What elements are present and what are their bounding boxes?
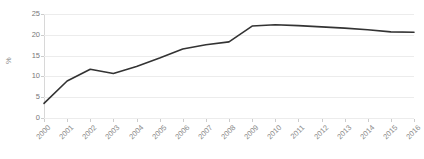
x-tick-mark: [44, 119, 45, 122]
x-axis-tick-labels: 2000200120022003200420052006200720082009…: [44, 119, 414, 159]
x-tick-mark: [90, 119, 91, 122]
y-tick-mark: [41, 14, 44, 15]
plot-area: [44, 14, 414, 118]
line-chart: % 0510152025 200020012002200320042005200…: [0, 0, 424, 159]
y-axis-tick-labels: 0510152025: [0, 14, 40, 119]
y-tick-mark: [41, 97, 44, 98]
y-tick-mark: [41, 76, 44, 77]
x-tick-mark: [252, 119, 253, 122]
y-tick-label: 0: [2, 114, 40, 122]
y-tick-label: 25: [2, 10, 40, 18]
y-tick-mark: [41, 35, 44, 36]
x-tick-mark: [368, 119, 369, 122]
y-tick-label: 5: [2, 93, 40, 101]
x-tick-mark: [206, 119, 207, 122]
x-tick-mark: [322, 119, 323, 122]
y-tick-label: 15: [2, 52, 40, 60]
x-tick-mark: [229, 119, 230, 122]
x-tick-mark: [67, 119, 68, 122]
y-tick-label: 10: [2, 72, 40, 80]
x-tick-mark: [414, 119, 415, 122]
x-tick-mark: [298, 119, 299, 122]
x-tick-mark: [275, 119, 276, 122]
x-tick-mark: [137, 119, 138, 122]
series-line: [44, 25, 414, 104]
y-tick-mark: [41, 118, 44, 119]
series-line-group: [44, 14, 414, 118]
y-tick-mark: [41, 56, 44, 57]
x-tick-mark: [345, 119, 346, 122]
x-tick-mark: [183, 119, 184, 122]
x-tick-mark: [160, 119, 161, 122]
y-tick-label: 20: [2, 31, 40, 39]
x-tick-mark: [113, 119, 114, 122]
x-tick-mark: [391, 119, 392, 122]
